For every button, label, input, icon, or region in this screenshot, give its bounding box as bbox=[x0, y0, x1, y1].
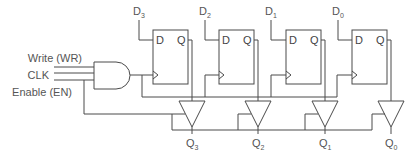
q2-output-label: Q2 bbox=[252, 137, 265, 151]
enable-input-label: Enable (EN) bbox=[12, 86, 72, 98]
d-pin-label: D bbox=[355, 34, 363, 46]
and-gate-input-wires bbox=[54, 67, 94, 80]
enable-bus bbox=[172, 114, 372, 130]
and-gate-icon bbox=[94, 62, 130, 89]
flipflop-1: D1 D Q Q1 bbox=[265, 5, 338, 151]
q1-output-label: Q1 bbox=[319, 137, 332, 151]
d-pin-label: D bbox=[156, 34, 164, 46]
flipflop-2: D2 D Q Q2 bbox=[199, 5, 271, 151]
flipflop-3: D3 D Q Q3 bbox=[133, 5, 205, 151]
flipflop-0: D0 D Q Q0 bbox=[332, 5, 404, 151]
q3-output-label: Q3 bbox=[186, 137, 199, 151]
d2-input-label: D2 bbox=[199, 5, 211, 19]
clk-input-label: CLK bbox=[28, 69, 50, 81]
d-pin-label: D bbox=[289, 34, 297, 46]
q-pin-label: Q bbox=[177, 34, 186, 46]
d3-input-label: D3 bbox=[133, 5, 145, 19]
d0-input-label: D0 bbox=[332, 5, 344, 19]
write-input-label: Write (WR) bbox=[28, 52, 82, 64]
register-circuit-diagram: Write (WR) CLK Enable (EN) D3 D Q Q3 D2 … bbox=[0, 0, 417, 166]
q-pin-label: Q bbox=[310, 34, 319, 46]
d-pin-label: D bbox=[222, 34, 230, 46]
q-pin-label: Q bbox=[376, 34, 385, 46]
q-pin-label: Q bbox=[243, 34, 252, 46]
d1-input-label: D1 bbox=[265, 5, 277, 19]
q0-output-label: Q0 bbox=[385, 137, 398, 151]
